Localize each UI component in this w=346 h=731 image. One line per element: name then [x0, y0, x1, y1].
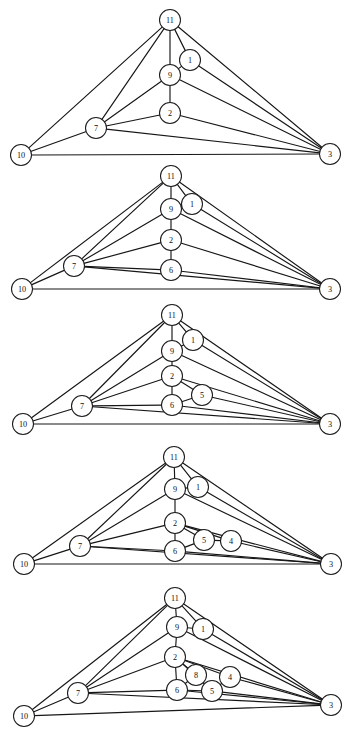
- graph-node-circle-8: [186, 665, 207, 686]
- graph-edge-1-3: [201, 209, 322, 283]
- graph-edge-11-3: [179, 182, 321, 283]
- graph-node-circle-5: [202, 681, 223, 702]
- graph-node-circle-1: [180, 50, 201, 71]
- graph-edge-10-3: [34, 705, 321, 715]
- graph-node-11: 11: [165, 588, 186, 609]
- graph-node-circle-7: [72, 396, 93, 417]
- graph-node-5: 5: [192, 385, 213, 406]
- graph-edge-1-3: [202, 345, 322, 418]
- graph-node-circle-11: [162, 305, 183, 326]
- graph-node-circle-11: [161, 166, 182, 187]
- graph-node-circle-6: [167, 680, 188, 701]
- graph-node-circle-9: [162, 341, 183, 362]
- graph-edge-2-6: [176, 667, 177, 680]
- graph-node-circle-6: [165, 541, 186, 562]
- graph-node-circle-2: [160, 103, 181, 124]
- graph-edge-5-3: [212, 397, 320, 421]
- edge-layer: [29, 27, 323, 155]
- graph-node-circle-11: [165, 588, 186, 609]
- graph-node-circle-9: [165, 479, 186, 500]
- graph-edge-11-1: [175, 29, 186, 51]
- graph-node-11: 11: [164, 447, 185, 468]
- graph-edge-9-7: [86, 633, 168, 688]
- graph-edge-5-6: [182, 398, 193, 402]
- graph-node-circle-1: [183, 330, 204, 351]
- graph-node-5: 5: [202, 681, 223, 702]
- graph-panel-4: 111925467103: [14, 447, 342, 575]
- graph-edge-11-10: [32, 463, 165, 558]
- graph-sequence-figure: 1119271031119267103111925671031119254671…: [0, 0, 346, 731]
- graph-node-10: 10: [12, 279, 33, 300]
- graph-edge-6-7: [92, 405, 162, 406]
- graph-node-3: 3: [321, 554, 342, 575]
- graph-panel-5: 1191284657103: [14, 588, 342, 727]
- graph-node-7: 7: [72, 396, 93, 417]
- graph-node-9: 9: [167, 617, 188, 638]
- graph-node-circle-7: [68, 683, 89, 704]
- graph-node-circle-7: [86, 118, 107, 139]
- graph-node-3: 3: [321, 695, 342, 716]
- graph-panel-3: 11192567103: [13, 305, 341, 435]
- graph-edge-7-10: [31, 131, 87, 151]
- graph-node-1: 1: [193, 619, 214, 640]
- graph-node-11: 11: [162, 305, 183, 326]
- graph-node-circle-11: [160, 10, 181, 31]
- graph-node-circle-3: [320, 414, 341, 435]
- graph-node-4: 4: [220, 667, 241, 688]
- graph-edge-7-3: [84, 267, 320, 288]
- graph-node-6: 6: [161, 260, 182, 281]
- graph-node-7: 7: [68, 683, 89, 704]
- graph-node-circle-3: [320, 144, 341, 165]
- graph-node-8: 8: [186, 665, 207, 686]
- graph-edge-2-7: [88, 661, 166, 690]
- graph-node-circle-1: [182, 194, 203, 215]
- graph-node-circle-1: [193, 619, 214, 640]
- graph-node-11: 11: [160, 10, 181, 31]
- graph-edge-6-7: [88, 690, 167, 692]
- graph-node-circle-2: [165, 513, 186, 534]
- figure-root: 1119271031119267103111925671031119254671…: [0, 0, 346, 731]
- graph-node-circle-10: [14, 706, 35, 727]
- graph-node-3: 3: [320, 144, 341, 165]
- graph-node-circle-10: [13, 414, 34, 435]
- graph-node-7: 7: [70, 536, 91, 557]
- graph-node-2: 2: [162, 366, 183, 387]
- graph-edge-9-7: [91, 356, 164, 400]
- graph-edge-9-2: [176, 637, 177, 647]
- graph-node-circle-6: [161, 260, 182, 281]
- graph-panel-2: 1119267103: [12, 166, 341, 300]
- graph-edge-9-3: [179, 80, 321, 150]
- graph-node-circle-7: [70, 536, 91, 557]
- graph-node-2: 2: [161, 230, 182, 251]
- graph-node-10: 10: [11, 145, 32, 166]
- graph-edge-2-7: [90, 525, 165, 543]
- graph-node-7: 7: [86, 118, 107, 139]
- graph-node-2: 2: [160, 103, 181, 124]
- graph-node-circle-4: [221, 531, 242, 552]
- graph-node-9: 9: [160, 65, 181, 86]
- graph-node-circle-9: [161, 199, 182, 220]
- graph-node-4: 4: [221, 531, 242, 552]
- graph-node-10: 10: [14, 706, 35, 727]
- graph-node-circle-3: [321, 554, 342, 575]
- graph-node-6: 6: [162, 395, 183, 416]
- graph-edge-11-1: [180, 465, 191, 479]
- graph-node-9: 9: [165, 479, 186, 500]
- graph-node-circle-2: [162, 366, 183, 387]
- graph-edge-2-7: [106, 115, 160, 126]
- graph-node-circle-11: [164, 447, 185, 468]
- graph-node-circle-4: [220, 667, 241, 688]
- graph-edge-5-6: [185, 544, 195, 548]
- graph-node-1: 1: [188, 477, 209, 498]
- graph-node-circle-1: [188, 477, 209, 498]
- graph-node-circle-2: [165, 647, 186, 668]
- graph-node-3: 3: [320, 279, 341, 300]
- graph-edge-11-3: [178, 27, 322, 148]
- graph-node-5: 5: [194, 530, 215, 551]
- graph-edge-11-9: [176, 608, 177, 617]
- graph-edge-11-7: [85, 605, 167, 686]
- graph-node-circle-3: [320, 279, 341, 300]
- graph-node-circle-3: [321, 695, 342, 716]
- graph-edge-11-7: [89, 322, 165, 398]
- node-layer: 111927103: [11, 10, 341, 166]
